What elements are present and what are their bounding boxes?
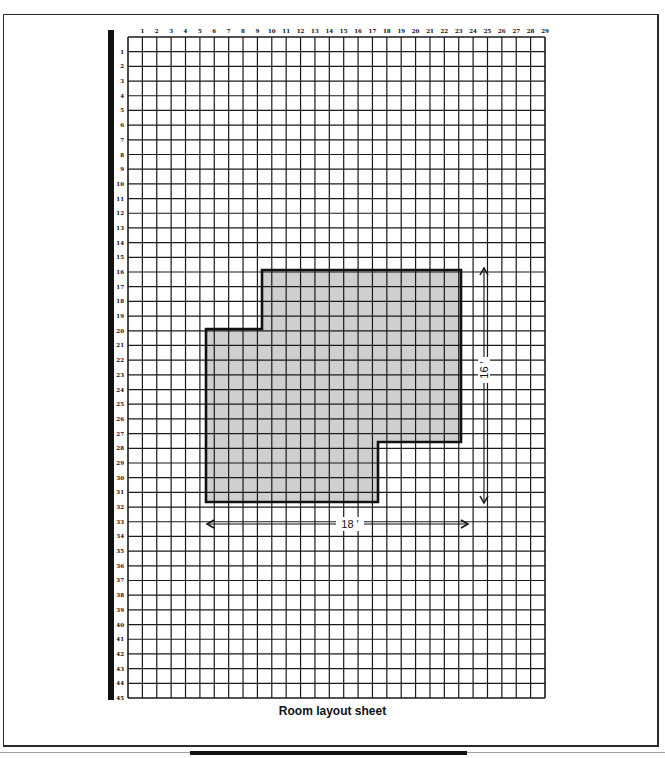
column-label: 9	[255, 28, 259, 34]
column-label: 10	[268, 28, 276, 34]
row-label: 31	[116, 489, 124, 495]
row-label: 17	[116, 284, 124, 290]
row-label: 44	[116, 680, 124, 686]
column-label: 14	[325, 28, 333, 34]
column-label: 16	[354, 28, 362, 34]
column-label: 2	[155, 28, 159, 34]
row-label: 16	[116, 269, 124, 275]
row-labels: 1234567891011121314151617181920212223242…	[116, 49, 124, 701]
row-label: 30	[116, 475, 124, 481]
column-label: 22	[441, 28, 449, 34]
column-label: 12	[297, 28, 305, 34]
column-label: 13	[311, 28, 319, 34]
column-label: 27	[512, 28, 520, 34]
row-label: 43	[116, 666, 124, 672]
row-label: 42	[116, 651, 124, 657]
column-label: 5	[198, 28, 202, 34]
row-label: 40	[116, 622, 124, 628]
column-label: 29	[541, 28, 549, 34]
row-label: 9	[120, 166, 124, 172]
row-label: 23	[116, 372, 124, 378]
column-label: 6	[212, 28, 216, 34]
row-label: 25	[116, 401, 124, 407]
bottom-bar	[190, 751, 467, 755]
dimension-label: 16 ′	[478, 361, 490, 378]
column-label: 1	[140, 28, 144, 34]
column-label: 23	[455, 28, 463, 34]
sheet-caption: Room layout sheet	[0, 704, 665, 718]
row-label: 11	[116, 196, 124, 202]
dimension-label: 18 ′	[341, 518, 358, 530]
column-label: 17	[369, 28, 377, 34]
row-label: 29	[116, 460, 124, 466]
column-label: 8	[241, 28, 245, 34]
column-label: 7	[227, 28, 231, 34]
row-label: 24	[116, 387, 124, 393]
row-label: 32	[116, 504, 124, 510]
row-label: 18	[116, 298, 124, 304]
row-label: 12	[116, 210, 124, 216]
row-label: 26	[116, 416, 124, 422]
row-label: 27	[116, 431, 124, 437]
row-label: 45	[116, 695, 124, 701]
row-label: 21	[116, 342, 124, 348]
column-label: 4	[184, 28, 188, 34]
column-label: 25	[484, 28, 492, 34]
room-fill	[206, 270, 461, 502]
row-label: 34	[116, 533, 124, 539]
row-label: 37	[116, 577, 124, 583]
row-label: 13	[116, 225, 124, 231]
row-label: 38	[116, 592, 124, 598]
row-label: 28	[116, 445, 124, 451]
column-label: 3	[169, 28, 173, 34]
column-label: 20	[412, 28, 420, 34]
row-label: 4	[120, 93, 124, 99]
row-label: 3	[120, 78, 124, 84]
row-label: 22	[116, 357, 124, 363]
column-labels: 1234567891011121314151617181920212223242…	[140, 28, 549, 34]
column-label: 21	[426, 28, 434, 34]
row-label: 2	[120, 63, 124, 69]
row-label: 15	[116, 254, 124, 260]
row-label: 6	[120, 122, 124, 128]
layout-grid: 1234567891011121314151617181920212223242…	[0, 0, 665, 758]
column-label: 24	[469, 28, 477, 34]
row-label: 20	[116, 328, 124, 334]
row-label: 1	[120, 49, 124, 55]
row-label: 41	[116, 636, 124, 642]
column-label: 15	[340, 28, 348, 34]
row-label: 39	[116, 607, 124, 613]
column-label: 26	[498, 28, 506, 34]
row-label: 36	[116, 563, 124, 569]
column-label: 18	[383, 28, 391, 34]
row-label: 14	[116, 240, 124, 246]
dimension-horizontal: 18 ′	[207, 517, 468, 531]
row-label: 5	[120, 107, 124, 113]
dimension-vertical: 16 ′	[478, 268, 490, 503]
column-label: 19	[397, 28, 405, 34]
row-label: 19	[116, 313, 124, 319]
row-label: 7	[120, 137, 124, 143]
row-label: 8	[120, 152, 124, 158]
row-label: 33	[116, 519, 124, 525]
column-label: 28	[527, 28, 535, 34]
row-label: 35	[116, 548, 124, 554]
row-label: 10	[116, 181, 124, 187]
column-label: 11	[282, 28, 290, 34]
room-shape	[206, 270, 461, 502]
